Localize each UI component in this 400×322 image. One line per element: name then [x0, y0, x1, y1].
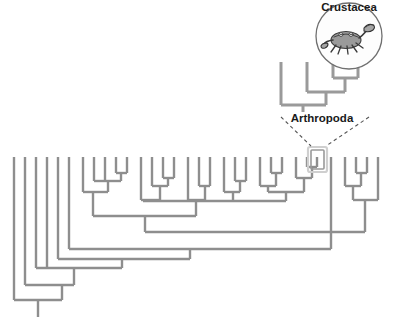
crab-claw-left [321, 43, 328, 48]
main-cladogram [14, 157, 378, 317]
phylogeny-figure: Crustacea Arthropoda [0, 0, 400, 322]
arthropoda-label: Arthropoda [291, 112, 354, 124]
crab-pupil-left [340, 34, 342, 36]
tree-tip-branches [14, 157, 378, 300]
crustacea-label: Crustacea [321, 1, 377, 13]
crab-pupil-right [350, 34, 352, 36]
